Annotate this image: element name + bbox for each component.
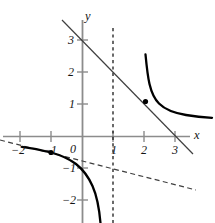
plot-canvas — [0, 0, 215, 223]
origin-label: 0 — [70, 143, 76, 155]
y-tick-label--2: −2 — [62, 194, 76, 206]
tangent-point-right — [143, 99, 148, 104]
x-tick-label-1: 1 — [111, 144, 117, 156]
hyperbola-left-branch — [22, 147, 101, 223]
x-tick-label--1: −1 — [43, 144, 57, 156]
y-tick-label-3: 3 — [68, 34, 74, 46]
graph-figure: −2 −1 1 2 3 0 3 2 1 −1 −2 x y — [0, 0, 215, 223]
x-tick-label--2: −2 — [11, 144, 25, 156]
x-tick-label-3: 3 — [172, 144, 178, 156]
x-tick-label-2: 2 — [141, 144, 147, 156]
x-axis-label: x — [194, 129, 200, 142]
hyperbola-right-branch — [146, 55, 213, 118]
y-tick-label--1: −1 — [62, 162, 76, 174]
y-tick-label-2: 2 — [68, 66, 74, 78]
y-axis-label: y — [85, 10, 91, 23]
y-tick-label-1: 1 — [69, 98, 75, 110]
